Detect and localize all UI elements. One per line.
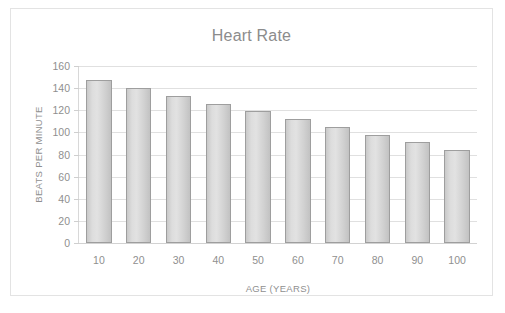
x-tick-label-70: 70 bbox=[318, 254, 358, 266]
bar[interactable] bbox=[126, 88, 151, 243]
x-tick-label-10: 10 bbox=[79, 254, 119, 266]
bar-slot: 40 bbox=[198, 66, 238, 243]
bar[interactable] bbox=[166, 96, 191, 243]
bar[interactable] bbox=[405, 142, 430, 243]
bar-slot: 60 bbox=[278, 66, 318, 243]
gridline-0: 0 bbox=[79, 243, 477, 244]
x-tick-label-30: 30 bbox=[159, 254, 199, 266]
bar[interactable] bbox=[206, 104, 231, 243]
y-tick-label-140: 140 bbox=[52, 82, 70, 94]
bar[interactable] bbox=[86, 80, 111, 243]
x-tick-label-90: 90 bbox=[397, 254, 437, 266]
x-tick-label-50: 50 bbox=[238, 254, 278, 266]
y-tick-label-60: 60 bbox=[58, 171, 70, 183]
bar-slot: 50 bbox=[238, 66, 278, 243]
bar[interactable] bbox=[444, 150, 469, 243]
plot-area: 020406080100120140160 102030405060708090… bbox=[79, 66, 477, 243]
bar-series: 102030405060708090100 bbox=[79, 66, 477, 243]
bar-slot: 70 bbox=[318, 66, 358, 243]
y-tick-label-40: 40 bbox=[58, 193, 70, 205]
x-tick-label-80: 80 bbox=[358, 254, 398, 266]
bar[interactable] bbox=[285, 119, 310, 243]
y-tick-mark-0 bbox=[74, 243, 79, 244]
chart-frame: Heart Rate BEATS PER MINUTE 020406080100… bbox=[10, 8, 493, 296]
chart-title: Heart Rate bbox=[11, 27, 492, 45]
bar-slot: 10 bbox=[79, 66, 119, 243]
bar-slot: 20 bbox=[119, 66, 159, 243]
y-tick-label-0: 0 bbox=[64, 237, 70, 249]
bar-slot: 80 bbox=[358, 66, 398, 243]
y-axis-title-text: BEATS PER MINUTE bbox=[33, 106, 44, 202]
bar[interactable] bbox=[245, 111, 270, 243]
bar-slot: 90 bbox=[397, 66, 437, 243]
x-tick-label-60: 60 bbox=[278, 254, 318, 266]
bar[interactable] bbox=[325, 127, 350, 243]
x-tick-label-20: 20 bbox=[119, 254, 159, 266]
bar-slot: 100 bbox=[437, 66, 477, 243]
y-tick-label-80: 80 bbox=[58, 149, 70, 161]
bar-slot: 30 bbox=[159, 66, 199, 243]
y-tick-label-160: 160 bbox=[52, 60, 70, 72]
x-tick-label-100: 100 bbox=[437, 254, 477, 266]
x-axis-title: AGE (YEARS) bbox=[79, 283, 477, 294]
y-tick-label-120: 120 bbox=[52, 104, 70, 116]
x-tick-label-40: 40 bbox=[198, 254, 238, 266]
y-axis-title: BEATS PER MINUTE bbox=[31, 66, 45, 243]
bar[interactable] bbox=[365, 135, 390, 243]
y-tick-label-20: 20 bbox=[58, 215, 70, 227]
y-tick-label-100: 100 bbox=[52, 126, 70, 138]
